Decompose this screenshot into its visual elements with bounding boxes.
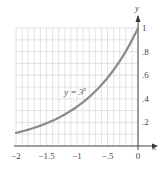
x-tick-label: −1.5 xyxy=(38,151,55,161)
y-tick-label: .6 xyxy=(142,70,149,80)
x-axis-label: x xyxy=(151,142,156,152)
x-tick-labels: −2−1.5−1−.50 xyxy=(11,151,141,161)
chart: x y −2−1.5−1−.50 .2.4.6.81 y = 3x xyxy=(0,0,165,171)
x-tick-label: −2 xyxy=(11,151,21,161)
y-tick-labels: .2.4.6.81 xyxy=(142,23,149,127)
x-tick-label: −.5 xyxy=(102,151,114,161)
x-tick-label: 0 xyxy=(136,151,141,161)
y-tick-label: .2 xyxy=(142,117,149,127)
y-tick-label: .4 xyxy=(142,94,149,104)
y-axis-label: y xyxy=(134,3,139,13)
y-axis-arrow-icon xyxy=(136,15,141,22)
x-tick-label: −1 xyxy=(72,151,82,161)
y-tick-label: .8 xyxy=(142,47,149,57)
axes: x y xyxy=(14,3,158,152)
y-tick-label: 1 xyxy=(142,23,147,33)
curve-label: y = 3x xyxy=(63,85,86,97)
